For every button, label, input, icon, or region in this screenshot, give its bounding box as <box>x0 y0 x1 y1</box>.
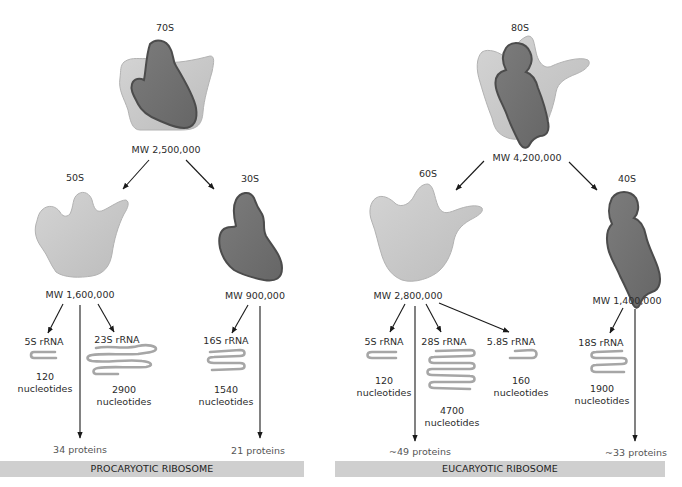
nucleotides-23s: 2900 nucleotides <box>97 384 152 407</box>
label-40s: 40S <box>618 173 636 184</box>
ribosome-80s <box>477 36 589 148</box>
label-80s: 80S <box>511 22 529 33</box>
ribosome-diagram <box>0 0 682 487</box>
rrna-28s-label: 28S rRNA <box>421 336 466 347</box>
banner-procaryotic: PROCARYOTIC RIBOSOME <box>0 461 304 477</box>
rrna-28s <box>428 350 475 389</box>
nucleotides-58s: 160 nucleotides <box>494 375 549 398</box>
ribosome-70s <box>120 41 214 130</box>
mw-50s: MW 1,600,000 <box>46 289 115 300</box>
rrna-16s-label: 16S rRNA <box>203 335 248 346</box>
subunit-50s-shape <box>35 192 128 277</box>
proteins-50s: 34 proteins <box>53 444 107 455</box>
rrna-16s <box>208 350 245 370</box>
label-30s: 30S <box>241 173 259 184</box>
mw-60s: MW 2,800,000 <box>374 290 443 301</box>
label-50s: 50S <box>66 172 84 183</box>
proteins-60s: ~49 proteins <box>389 446 451 457</box>
rrna-58s <box>510 350 537 358</box>
nucleotides-5s-eu: 120 nucleotides <box>357 375 412 398</box>
rrna-23s <box>88 345 157 374</box>
rrna-5s-eu <box>368 352 397 358</box>
rrna-58s-label: 5.8S rRNA <box>487 336 535 347</box>
nucleotides-16s: 1540 nucleotides <box>199 384 254 407</box>
subunit-40s-shape <box>607 192 660 308</box>
label-60s: 60S <box>419 168 437 179</box>
rrna-5s-eu-label: 5S rRNA <box>364 336 403 347</box>
mw-40s: MW 1,400,000 <box>593 295 662 306</box>
mw-30s: MW 900,000 <box>225 290 285 301</box>
nucleotides-28s: 4700 nucleotides <box>425 405 480 428</box>
rrna-5s-pro-label: 5S rRNA <box>24 336 63 347</box>
mw-70s: MW 2,500,000 <box>132 144 201 155</box>
rrna-18s-label: 18S rRNA <box>578 337 623 348</box>
rrna-5s-pro <box>31 352 56 358</box>
subunit-60s-shape <box>370 184 482 281</box>
rrna-23s-label: 23S rRNA <box>94 334 139 345</box>
rrna-18s <box>592 351 627 372</box>
mw-80s: MW 4,200,000 <box>493 152 562 163</box>
proteins-40s: ~33 proteins <box>605 447 667 458</box>
proteins-30s: 21 proteins <box>231 445 285 456</box>
nucleotides-18s: 1900 nucleotides <box>575 383 630 406</box>
nucleotides-5s-pro: 120 nucleotides <box>18 371 73 394</box>
subunit-30s-shape <box>219 193 282 281</box>
label-70s: 70S <box>156 22 174 33</box>
banner-eucaryotic: EUCARYOTIC RIBOSOME <box>335 461 665 477</box>
